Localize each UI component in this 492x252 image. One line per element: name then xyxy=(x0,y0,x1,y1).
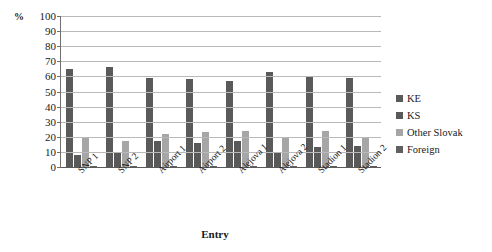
y-axis-tick-label: 40 xyxy=(45,102,56,113)
y-axis-tick-label: 80 xyxy=(45,41,56,52)
y-axis-tick-label: 50 xyxy=(45,87,56,98)
legend-item[interactable]: Foreign xyxy=(396,141,492,158)
legend-swatch-icon xyxy=(396,95,403,102)
gridline xyxy=(61,16,381,17)
grouped-bar-chart: % 1009080706050403020100 SNP 1SNP 2Airpo… xyxy=(0,0,492,252)
legend-item[interactable]: KS xyxy=(396,107,492,124)
legend-item[interactable]: KE xyxy=(396,90,492,107)
gridline xyxy=(61,61,381,62)
gridline xyxy=(61,137,381,138)
y-axis-tick-label: 0 xyxy=(51,162,57,173)
y-axis-tick-label: 20 xyxy=(45,132,56,143)
legend-label: KE xyxy=(407,93,421,104)
y-axis-tickmark xyxy=(57,46,61,47)
y-axis-tick-label: 100 xyxy=(40,11,57,22)
legend-swatch-icon xyxy=(396,112,403,119)
x-axis-title: Entry xyxy=(0,228,430,240)
y-axis-tickmark xyxy=(57,107,61,108)
bar xyxy=(226,81,233,167)
y-axis-tickmark xyxy=(57,137,61,138)
y-axis-tick-labels: 1009080706050403020100 xyxy=(26,0,56,252)
legend-item[interactable]: Other Slovak xyxy=(396,124,492,141)
y-axis-tick-label: 90 xyxy=(45,26,56,37)
gridline xyxy=(61,122,381,123)
y-axis-tickmark xyxy=(57,122,61,123)
y-axis-tickmark xyxy=(57,16,61,17)
y-axis-tick-label: 10 xyxy=(45,147,56,158)
legend-label: KS xyxy=(407,110,420,121)
y-axis-tick-label: 30 xyxy=(45,117,56,128)
y-axis-tick-label: 70 xyxy=(45,56,56,67)
y-axis-tickmark xyxy=(57,61,61,62)
y-axis-tickmark xyxy=(57,92,61,93)
gridline xyxy=(61,107,381,108)
gridline xyxy=(61,92,381,93)
legend-label: Foreign xyxy=(407,144,440,155)
y-axis-tickmark xyxy=(57,152,61,153)
gridline xyxy=(61,31,381,32)
gridline xyxy=(61,76,381,77)
y-axis-tickmark xyxy=(57,76,61,77)
legend-swatch-icon xyxy=(396,146,403,153)
legend-label: Other Slovak xyxy=(407,127,463,138)
y-axis-tickmark xyxy=(57,31,61,32)
y-axis-unit-label: % xyxy=(14,11,24,22)
chart-legend: KEKSOther SlovakForeign xyxy=(396,90,492,158)
bar xyxy=(186,79,193,167)
y-axis-tick-label: 60 xyxy=(45,71,56,82)
legend-swatch-icon xyxy=(396,129,403,136)
gridline xyxy=(61,46,381,47)
x-axis-tick-labels: SNP 1SNP 2Airport 1Airport 2Alejova 1Ale… xyxy=(60,168,380,224)
